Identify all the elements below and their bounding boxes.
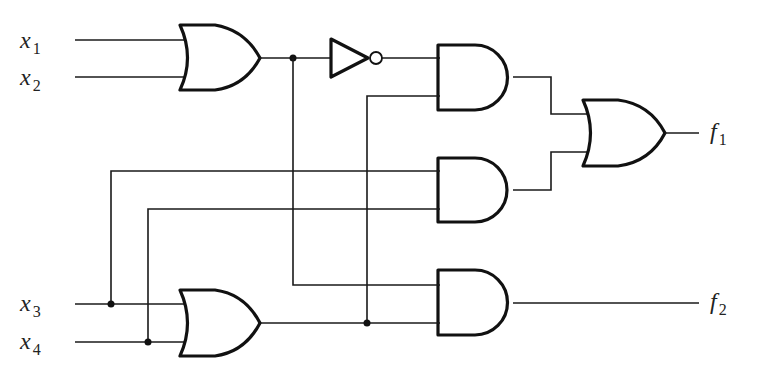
junction-or2 bbox=[364, 320, 371, 327]
or-gate-1 bbox=[180, 25, 260, 90]
output-label-f2: f2 bbox=[710, 288, 727, 318]
and-gate-1 bbox=[438, 45, 508, 110]
input-label-x3: x3 bbox=[19, 290, 41, 320]
input-label-x2: x2 bbox=[19, 64, 41, 94]
or-gate-3 bbox=[583, 100, 665, 166]
input-label-x4: x4 bbox=[19, 328, 41, 358]
not-gate bbox=[331, 39, 368, 77]
not-bubble-icon bbox=[370, 52, 382, 64]
wire-and1-out bbox=[513, 77, 588, 114]
and-gate-3 bbox=[438, 270, 508, 335]
wire-and2-out bbox=[513, 152, 588, 190]
junction-x3 bbox=[108, 301, 115, 308]
wire-x3-to-and2 bbox=[111, 171, 440, 304]
logic-circuit-diagram: x1 x2 x3 x4 f1 f2 bbox=[0, 0, 771, 382]
junction-x4 bbox=[145, 339, 152, 346]
input-label-x1: x1 bbox=[19, 27, 41, 57]
wire-x4-to-and2 bbox=[148, 209, 440, 342]
output-label-f1: f1 bbox=[710, 118, 727, 148]
and-gate-2 bbox=[438, 158, 507, 222]
or-gate-2 bbox=[180, 290, 260, 356]
